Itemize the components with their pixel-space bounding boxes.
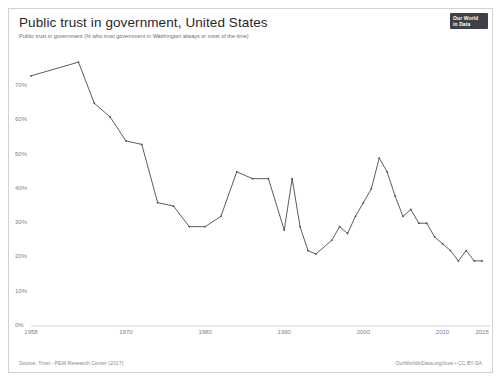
y-axis-tick-label: 70% [15,82,27,88]
y-axis-tick-label: 50% [15,151,27,157]
chart-source: Source: Trust - PEW Research Center (201… [19,360,123,366]
data-point[interactable] [394,195,396,197]
y-axis-tick-label: 10% [15,288,27,294]
data-point[interactable] [204,226,206,228]
data-point[interactable] [370,188,372,190]
data-point[interactable] [378,157,380,159]
data-point[interactable] [299,226,301,228]
data-point[interactable] [109,116,111,118]
data-point[interactable] [418,222,420,224]
data-point[interactable] [93,102,95,104]
x-axis-tick-label: 2000 [357,329,370,335]
data-point[interactable] [410,209,412,211]
data-point[interactable] [402,215,404,217]
y-axis-tick-label: 40% [15,185,27,191]
data-point[interactable] [315,253,317,255]
data-point[interactable] [473,260,475,262]
data-point[interactable] [236,171,238,173]
data-point[interactable] [125,140,127,142]
data-point[interactable] [362,202,364,204]
data-point[interactable] [465,250,467,252]
data-point[interactable] [291,178,293,180]
data-point[interactable] [386,171,388,173]
x-axis-tick-label: 2010 [436,329,449,335]
x-axis-tick-label: 2015 [475,329,488,335]
y-axis-tick-label: 60% [15,116,27,122]
data-point[interactable] [30,75,32,77]
data-point[interactable] [283,229,285,231]
y-axis-tick-label: 20% [15,253,27,259]
y-axis-tick-label: 30% [15,219,27,225]
data-point[interactable] [481,260,483,262]
line-chart-plot [9,9,494,374]
data-point[interactable] [268,178,270,180]
x-axis-tick-label: 1980 [198,329,211,335]
data-point[interactable] [355,215,357,217]
series-line[interactable] [31,62,482,261]
data-point[interactable] [173,205,175,207]
data-point[interactable] [434,236,436,238]
data-point[interactable] [157,202,159,204]
data-point[interactable] [220,215,222,217]
data-point[interactable] [252,178,254,180]
data-point[interactable] [307,250,309,252]
y-axis-tick-label: 0% [15,322,24,328]
data-point[interactable] [188,226,190,228]
data-point[interactable] [339,226,341,228]
data-point[interactable] [347,233,349,235]
data-point[interactable] [78,61,80,63]
chart-attribution[interactable]: OurWorldInData.org/trust • CC BY-SA [395,360,482,366]
data-point[interactable] [457,260,459,262]
data-point[interactable] [450,250,452,252]
chart-frame: Public trust in government, United State… [8,8,493,373]
series-layer [30,61,483,262]
data-point[interactable] [331,239,333,241]
x-axis-tick-label: 1958 [24,329,37,335]
data-point[interactable] [141,143,143,145]
x-axis-tick-label: 1970 [119,329,132,335]
data-point[interactable] [442,243,444,245]
data-point[interactable] [426,222,428,224]
x-axis-tick-label: 1990 [278,329,291,335]
